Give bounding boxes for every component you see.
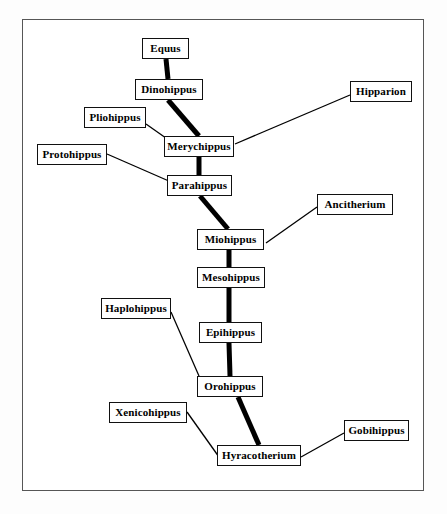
taxon-label-merychippus: Merychippus [167, 141, 230, 152]
taxon-label-mesohippus: Mesohippus [202, 272, 260, 283]
taxon-box-equus[interactable]: Equus [142, 38, 189, 59]
taxon-label-hipparion: Hipparion [356, 86, 406, 97]
taxon-box-protohippus[interactable]: Protohippus [37, 144, 107, 165]
taxon-label-pliohippus: Pliohippus [89, 112, 140, 123]
taxon-box-orohippus[interactable]: Orohippus [197, 376, 263, 397]
taxon-label-orohippus: Orohippus [204, 381, 255, 392]
taxon-label-protohippus: Protohippus [43, 149, 102, 160]
taxon-box-miohippus[interactable]: Miohippus [197, 229, 264, 250]
taxon-label-epihippus: Epihippus [206, 327, 255, 338]
taxon-label-equus: Equus [150, 43, 180, 54]
taxon-box-mesohippus[interactable]: Mesohippus [197, 267, 265, 288]
taxon-box-merychippus[interactable]: Merychippus [164, 136, 234, 157]
taxon-box-hyracotherium[interactable]: Hyracotherium [217, 445, 301, 466]
taxon-box-xenicohippus[interactable]: Xenicohippus [109, 402, 187, 423]
taxon-box-ancitherium[interactable]: Ancitherium [317, 194, 393, 215]
taxon-box-haplohippus[interactable]: Haplohippus [101, 298, 171, 319]
taxon-box-parahippus[interactable]: Parahippus [167, 175, 232, 196]
taxon-label-ancitherium: Ancitherium [325, 199, 386, 210]
taxon-box-epihippus[interactable]: Epihippus [199, 322, 262, 343]
taxon-label-xenicohippus: Xenicohippus [115, 407, 180, 418]
taxon-label-hyracotherium: Hyracotherium [222, 450, 296, 461]
taxon-box-dinohippus[interactable]: Dinohippus [135, 79, 203, 100]
taxon-label-miohippus: Miohippus [205, 234, 257, 245]
taxon-box-hipparion[interactable]: Hipparion [350, 81, 412, 102]
taxon-label-parahippus: Parahippus [172, 180, 227, 191]
diagram-canvas: EquusDinohippusHipparionPliohippusMerych… [0, 0, 447, 514]
taxon-label-haplohippus: Haplohippus [105, 303, 167, 314]
taxon-box-gobihippus[interactable]: Gobihippus [344, 420, 409, 441]
taxon-box-pliohippus[interactable]: Pliohippus [84, 107, 146, 128]
taxon-label-dinohippus: Dinohippus [141, 84, 196, 95]
taxon-label-gobihippus: Gobihippus [348, 425, 404, 436]
